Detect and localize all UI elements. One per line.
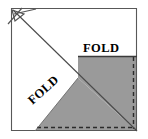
- fold-label-top: FOLD: [83, 42, 119, 55]
- diagram-canvas: [0, 0, 148, 139]
- fabric-fold-diagram: FOLD FOLD: [0, 0, 148, 139]
